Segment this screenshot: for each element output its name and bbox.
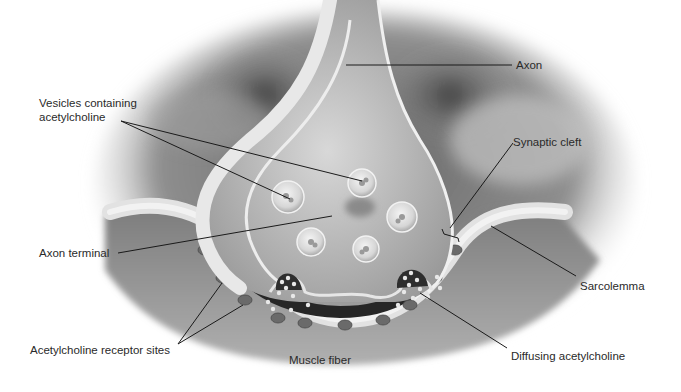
label-vesicles-line1: Vesicles containing (39, 96, 159, 110)
label-sarcolemma: Sarcolemma (580, 279, 645, 293)
label-axon-terminal: Axon terminal (39, 246, 109, 260)
label-vesicles-line2: acetylcholine (39, 110, 159, 124)
label-axon: Axon (516, 58, 542, 72)
label-receptor-sites: Acetylcholine receptor sites (30, 343, 170, 357)
label-vesicles: Vesicles containing acetylcholine (39, 96, 159, 124)
label-diffusing-acetylcholine: Diffusing acetylcholine (511, 349, 625, 363)
label-synaptic-cleft: Synaptic cleft (513, 135, 581, 149)
label-muscle-fiber: Muscle fiber (289, 353, 351, 367)
neuromuscular-junction-illustration (0, 0, 681, 392)
